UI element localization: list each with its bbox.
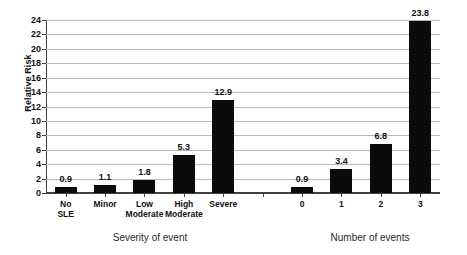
bar-value-label: 1.8 — [138, 168, 151, 177]
bar-slot: 1.8Low Moderate — [125, 20, 164, 193]
bar[interactable] — [55, 187, 77, 193]
x-axis-tick-mark — [144, 193, 145, 197]
y-axis-tick-label: 20 — [31, 44, 41, 53]
y-axis-tick-label: 22 — [31, 30, 41, 39]
bar-value-label: 0.9 — [59, 175, 72, 184]
x-axis-tick-label: 2 — [379, 199, 384, 209]
x-axis-tick-label: Low Moderate — [126, 199, 164, 219]
bar-value-label: 1.1 — [99, 173, 112, 182]
bar-slot: 3.41 — [322, 20, 361, 193]
y-axis-tick-label: 2 — [36, 174, 41, 183]
bar-value-label: 0.9 — [296, 175, 309, 184]
y-axis-tick-mark — [42, 193, 46, 194]
bar[interactable] — [133, 180, 155, 193]
x-axis-tick-mark — [341, 193, 342, 197]
bar-value-label: 6.8 — [375, 132, 388, 141]
bar[interactable] — [173, 155, 195, 193]
x-axis-tick-mark — [381, 193, 382, 197]
x-axis-tick-mark — [223, 193, 224, 197]
x-axis-tick-mark — [302, 193, 303, 197]
x-axis-tick-label: 3 — [418, 199, 423, 209]
bar-value-label: 12.9 — [215, 88, 233, 97]
y-axis-tick-label: 14 — [31, 88, 41, 97]
x-axis-tick-mark — [105, 193, 106, 197]
x-axis-tick-label: 0 — [300, 199, 305, 209]
y-axis-tick-label: 6 — [36, 145, 41, 154]
chart-figure: Relative Risk 024681012141618202224 0.9N… — [0, 0, 467, 255]
y-axis-tick-label: 0 — [36, 189, 41, 198]
bar-slot: 5.3High Moderate — [164, 20, 203, 193]
bar-slot — [243, 20, 282, 193]
x-axis-tick-mark — [184, 193, 185, 197]
bar-slot: 0.9No SLE — [46, 20, 85, 193]
x-axis-tick-label: No SLE — [56, 199, 76, 219]
plot-area: 024681012141618202224 0.9No SLE1.1Minor1… — [46, 20, 440, 193]
bar-value-label: 3.4 — [335, 157, 348, 166]
bar[interactable] — [212, 100, 234, 193]
bar-slot: 23.83 — [401, 20, 440, 193]
x-axis-tick-mark — [263, 193, 264, 197]
x-axis-tick-label: 1 — [339, 199, 344, 209]
bar-value-label: 23.8 — [412, 9, 430, 18]
bar[interactable] — [370, 144, 392, 193]
x-axis-tick-label: Severe — [209, 199, 237, 209]
bar[interactable] — [330, 169, 352, 194]
x-axis-tick-label: High Moderate — [165, 199, 203, 219]
x-axis-tick-label: Minor — [94, 199, 117, 209]
x-axis-title-number: Number of events — [282, 232, 458, 243]
x-axis-tick-mark — [420, 193, 421, 197]
y-axis-tick-label: 18 — [31, 59, 41, 68]
bar-slot: 12.9Severe — [204, 20, 243, 193]
bar[interactable] — [94, 185, 116, 193]
bar[interactable] — [291, 187, 313, 193]
y-axis-tick-label: 12 — [31, 102, 41, 111]
bar-value-label: 5.3 — [178, 143, 191, 152]
y-axis-tick-label: 10 — [31, 116, 41, 125]
bar-slot: 0.90 — [282, 20, 321, 193]
bar[interactable] — [409, 21, 431, 193]
y-axis-tick-label: 24 — [31, 16, 41, 25]
x-axis-title-severity: Severity of event — [62, 232, 238, 243]
y-axis-tick-label: 4 — [36, 160, 41, 169]
x-axis-tick-mark — [66, 193, 67, 197]
bar-slot: 6.82 — [361, 20, 400, 193]
y-axis-tick-label: 16 — [31, 73, 41, 82]
bar-slot: 1.1Minor — [85, 20, 124, 193]
y-axis-tick-label: 8 — [36, 131, 41, 140]
